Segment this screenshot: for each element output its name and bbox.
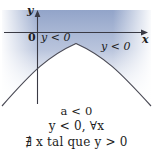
caption-existence-condition: ∄ x tal que y > 0 bbox=[0, 135, 153, 151]
region-label-left: y < 0 bbox=[41, 32, 70, 43]
x-axis-label: x bbox=[142, 34, 149, 45]
caption-sign-condition: y < 0, ∀x bbox=[0, 119, 153, 135]
caption-coefficient: a < 0 bbox=[0, 104, 153, 119]
region-label-right: y < 0 bbox=[101, 41, 130, 52]
shaded-region-y-negative bbox=[0, 10, 153, 110]
parabola-figure: y x 0 y < 0 y < 0 a < 0 y < 0, ∀x ∄ x ta… bbox=[0, 0, 153, 162]
y-axis-label: y bbox=[27, 5, 33, 16]
origin-label: 0 bbox=[28, 32, 36, 43]
caption-block: a < 0 y < 0, ∀x ∄ x tal que y > 0 bbox=[0, 104, 153, 151]
parabola-plot bbox=[0, 0, 153, 112]
